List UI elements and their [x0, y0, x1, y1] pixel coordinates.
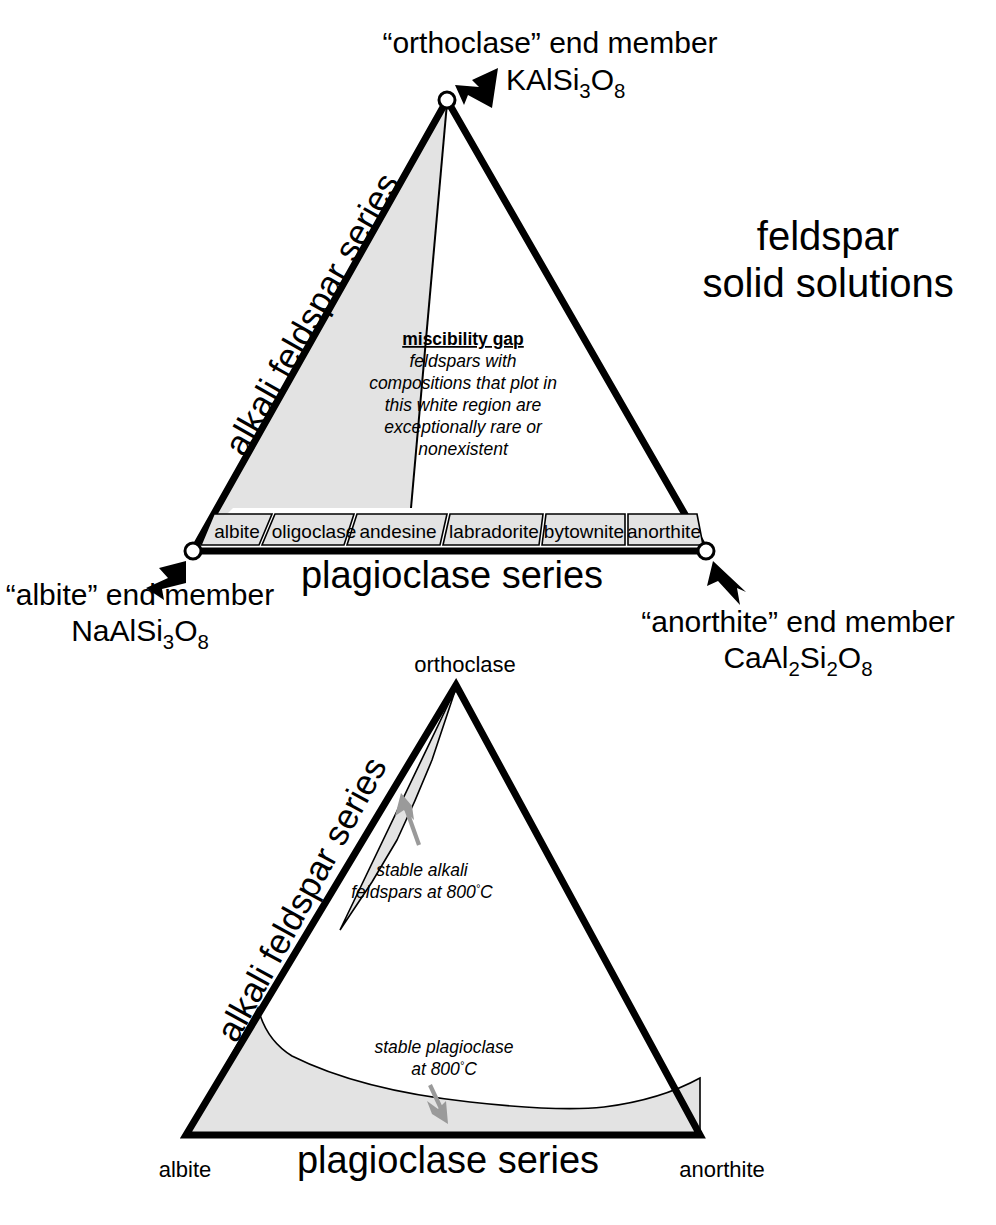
anorthite-end-member-callout: “anorthite” end member CaAl2Si2O8: [641, 561, 954, 680]
albite-callout-line1: “albite” end member: [6, 578, 274, 611]
miscibility-gap-line1: feldspars with: [410, 351, 517, 371]
bottom-apex-label-orthoclase: orthoclase: [414, 652, 516, 677]
bottom-right-vertex-label-anorthite: anorthite: [679, 1157, 765, 1182]
vertex-dot-anorthite: [698, 543, 714, 559]
stable-plagioclase-note-line2: at 800°C: [411, 1059, 477, 1079]
orthoclase-callout-line1: “orthoclase” end member: [382, 26, 717, 59]
orthoclase-callout-formula: KAlSi3O8: [506, 63, 625, 102]
anorthite-callout-arrow: [707, 561, 746, 605]
stable-alkali-note-line2: feldspars at 800°C: [351, 882, 493, 902]
plagioclase-box-label-labradorite: labradorite: [449, 521, 539, 542]
plagioclase-box-strip: albite oligoclase andesine labradorite b…: [201, 514, 703, 545]
miscibility-gap-line5: nonexistent: [418, 439, 509, 459]
figure-page: albite oligoclase andesine labradorite b…: [0, 0, 996, 1225]
feldspar-solid-solutions-figure: albite oligoclase andesine labradorite b…: [0, 0, 996, 1225]
vertex-dot-albite: [185, 543, 201, 559]
orthoclase-callout-arrow: [455, 68, 498, 108]
vertex-dot-orthoclase: [439, 92, 455, 108]
anorthite-callout-formula: CaAl2Si2O8: [723, 641, 872, 680]
plagioclase-box-label-albite: albite: [214, 521, 259, 542]
plagioclase-box-label-anorthite: anorthite: [627, 521, 701, 542]
figure-title-line1: feldspar: [757, 214, 899, 258]
stable-alkali-note-line1: stable alkali: [376, 860, 469, 880]
plagioclase-box-label-bytownite: bytownite: [544, 521, 624, 542]
albite-callout-formula: NaAlSi3O8: [71, 614, 209, 653]
orthoclase-end-member-callout: “orthoclase” end member KAlSi3O8: [382, 26, 717, 108]
stable-plagioclase-note-line1: stable plagioclase: [374, 1037, 513, 1057]
miscibility-gap-line3: this white region are: [385, 395, 542, 415]
top-ternary-diagram: albite oligoclase andesine labradorite b…: [6, 26, 955, 680]
bottom-plagioclase-series-label: plagioclase series: [297, 1139, 599, 1181]
top-plagioclase-series-label: plagioclase series: [301, 554, 603, 596]
albite-end-member-callout: “albite” end member NaAlSi3O8: [6, 561, 274, 653]
miscibility-gap-line2: compositions that plot in: [369, 373, 557, 393]
stable-alkali-note: stable alkali feldspars at 800°C: [351, 793, 493, 902]
plagioclase-box-label-oligoclase: oligoclase: [272, 521, 357, 542]
figure-title-line2: solid solutions: [702, 261, 953, 305]
bottom-ternary-diagram: alkali feldspar series orthoclase plagio…: [159, 652, 765, 1182]
bottom-left-vertex-label-albite: albite: [159, 1157, 212, 1182]
plagioclase-box-label-andesine: andesine: [359, 521, 436, 542]
miscibility-gap-heading: miscibility gap: [402, 329, 524, 349]
figure-title: feldspar solid solutions: [702, 214, 953, 305]
miscibility-gap-line4: exceptionally rare or: [384, 417, 543, 437]
anorthite-callout-line1: “anorthite” end member: [641, 605, 954, 638]
